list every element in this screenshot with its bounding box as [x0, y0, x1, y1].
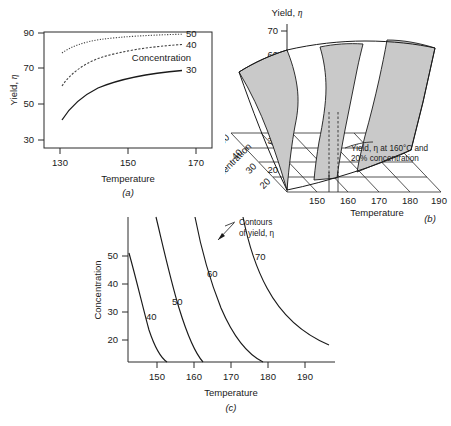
panel-a-curve-conc-30: [62, 71, 182, 121]
panel-c-ytick-2: 40: [107, 278, 118, 289]
panel-b-ztick-5: 70: [267, 25, 278, 36]
panel-c-contour-label-40: 40: [146, 311, 157, 322]
panel-c-contour-60: [195, 217, 263, 362]
panel-a-legend-title: Concentration: [132, 52, 191, 63]
panel-a-ytick-0: 30: [23, 134, 34, 145]
panel-a-y-axis-title: Yield, η: [8, 74, 19, 105]
panel-c-xtick-4: 190: [297, 371, 313, 382]
panel-c-annotation-line2: of yield, η: [239, 229, 274, 238]
panel-c: 20 30 40 50 150 160 170 180 190 Concentr…: [85, 212, 375, 426]
panel-c-xtick-3: 180: [260, 371, 276, 382]
panel-c-ylabel-text: Concentration: [92, 260, 103, 319]
panel-c-x-axis-title: Temperature: [204, 387, 257, 398]
panel-b-xtick-0: 150: [309, 195, 325, 206]
panel-c-contour-label-50: 50: [172, 296, 183, 307]
panel-b-annotation-line2: 20% concentration: [351, 154, 419, 163]
panel-c-ytick-0: 20: [107, 334, 118, 345]
panel-b-zlabel-symbol: η: [298, 8, 303, 18]
panel-c-x-axis: 150 160 170 180 190: [149, 362, 313, 382]
panel-a-curve-label-30: 30: [186, 64, 197, 75]
panel-c-ytick-1: 30: [107, 306, 118, 317]
panel-b-z-axis-title: Yield, η: [272, 7, 303, 18]
panel-c-xtick-0: 150: [149, 371, 165, 382]
panel-a-ytick-2: 70: [23, 62, 34, 73]
panel-b-ztick-0: 20: [267, 164, 278, 175]
panel-a-curve-conc-50: [62, 34, 182, 53]
panel-a-y-axis: 30 50 70 90: [23, 27, 44, 145]
panel-b-caption: (b): [424, 213, 436, 224]
panel-b-ytick-0: 20: [257, 176, 272, 191]
panel-c-xtick-2: 170: [223, 371, 239, 382]
svg-text:Yield, η: Yield, η: [8, 74, 19, 105]
panel-b-ytick-3: 50: [225, 132, 231, 147]
panel-a-curve-label-40: 40: [186, 39, 197, 50]
panel-a-curve-label-50: 50: [186, 28, 197, 39]
panel-b-zlabel-text: Yield,: [272, 7, 298, 18]
figure-response-surface: 30 50 70 90 130 150 170 Yield, η Tempera…: [0, 0, 451, 426]
panel-c-contour-50: [156, 217, 203, 362]
panel-a: 30 50 70 90 130 150 170 Yield, η Tempera…: [0, 0, 230, 215]
panel-b-annotation-line1: Yield, η at 160°C and: [351, 144, 429, 153]
panel-c-y-axis-title: Concentration: [92, 260, 103, 319]
panel-b-xtick-4: 190: [431, 195, 447, 206]
panel-b-xtick-1: 160: [340, 195, 356, 206]
panel-b-xtick-3: 180: [402, 195, 418, 206]
panel-c-contour-40: [129, 253, 167, 362]
panel-a-ylabel-symbol: η: [9, 74, 19, 79]
panel-a-x-axis: 130 150 170: [52, 148, 204, 168]
panel-a-ytick-3: 90: [23, 27, 34, 38]
panel-a-xtick-0: 130: [52, 157, 68, 168]
panel-a-caption: (a): [122, 187, 134, 198]
panel-a-ytick-1: 50: [23, 98, 34, 109]
panel-a-ylabel-text: Yield,: [8, 79, 19, 105]
panel-c-caption: (c): [225, 402, 236, 413]
panel-c-xtick-1: 160: [186, 371, 202, 382]
panel-c-annotation-line1: Contours: [239, 218, 272, 227]
panel-c-contour-label-70: 70: [255, 251, 266, 262]
panel-b: 20 30 40 50 60 70 Yield, η Yield, η at 1…: [225, 0, 451, 225]
panel-a-xtick-1: 150: [120, 157, 136, 168]
panel-a-xtick-2: 170: [188, 157, 204, 168]
panel-b-ytick-1: 30: [243, 161, 258, 176]
panel-c-contour-label-60: 60: [207, 268, 218, 279]
panel-c-y-axis: 20 30 40 50: [107, 250, 128, 345]
panel-c-ytick-3: 50: [107, 250, 118, 261]
panel-a-x-axis-title: Temperature: [101, 173, 154, 184]
panel-b-xtick-2: 170: [371, 195, 387, 206]
